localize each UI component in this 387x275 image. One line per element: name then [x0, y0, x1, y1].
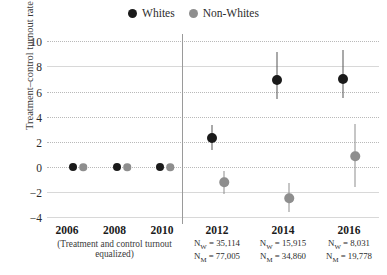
n-w-subscript-2016: W: [334, 243, 340, 250]
data-point-non-whites-2008: [123, 163, 131, 171]
x-group-2012: 2012 NW = 35,114 NM = 77,005: [184, 224, 250, 264]
sample-size-whites-2012: NW = 35,114: [184, 239, 250, 250]
data-point-whites-2016: [338, 74, 348, 84]
sample-size-minorities-2016: NM = 19,778: [316, 252, 382, 263]
preperiod-years: 2006 2008 2010: [56, 224, 174, 237]
y-tick-8: 8: [36, 61, 42, 73]
data-point-whites-2006: [69, 163, 77, 171]
n-w-subscript-2012: W: [200, 243, 206, 250]
x-tick-2014: 2014: [250, 224, 316, 237]
chart-figure: Whites Non-Whites Treatment–control turn…: [0, 0, 387, 275]
gridline-0: 0: [47, 167, 379, 168]
n-m-subscript-2014: M: [266, 256, 272, 263]
gridline-6: 6: [47, 92, 379, 93]
n-m-value-2012: = 77,005: [209, 251, 240, 261]
data-point-non-whites-2014: [284, 193, 294, 203]
data-point-non-whites-2016: [350, 151, 360, 161]
n-w-value-2016: = 8,031: [343, 238, 370, 248]
x-tick-2012: 2012: [184, 224, 250, 237]
data-point-whites-2014: [272, 75, 282, 85]
data-point-non-whites-2010: [166, 163, 174, 171]
y-tick-10: 10: [31, 36, 43, 48]
legend-item-non-whites: Non-Whites: [189, 8, 259, 20]
n-w-subscript-2014: W: [266, 243, 272, 250]
gridline-minus2: −2: [47, 192, 379, 193]
legend-swatch-whites: [128, 9, 137, 18]
x-group-preperiod: 2006 2008 2010 (Treatment and control tu…: [47, 224, 182, 260]
x-group-2016: 2016 NW = 8,031 NM = 19,778: [316, 224, 382, 264]
legend-swatch-non-whites: [189, 9, 198, 18]
n-m-subscript-2016: M: [332, 256, 338, 263]
chart-legend: Whites Non-Whites: [0, 8, 387, 20]
data-point-non-whites-2012: [219, 177, 229, 187]
x-tick-2010: 2010: [151, 224, 174, 237]
n-w-value-2014: = 15,915: [275, 238, 306, 248]
sample-size-minorities-2012: NM = 77,005: [184, 252, 250, 263]
gridline-10: 10: [47, 41, 379, 42]
n-m-subscript-2012: M: [200, 256, 206, 263]
x-group-2014: 2014 NW = 15,915 NM = 34,860: [250, 224, 316, 264]
plot-area: 10 8 6 4 2 0 −2 −4: [47, 36, 379, 222]
x-tick-2008: 2008: [103, 224, 126, 237]
n-m-value-2014: = 34,860: [275, 251, 306, 261]
y-tick-minus4: −4: [30, 212, 42, 224]
legend-item-whites: Whites: [128, 8, 175, 20]
preperiod-note: (Treatment and control turnout equalized…: [47, 239, 182, 260]
gridline-4: 4: [47, 117, 379, 118]
gridline-8: 8: [47, 66, 379, 67]
data-point-whites-2008: [113, 163, 121, 171]
legend-label-non-whites: Non-Whites: [203, 8, 259, 20]
n-w-value-2012: = 35,114: [209, 238, 240, 248]
legend-label-whites: Whites: [142, 8, 175, 20]
data-point-whites-2010: [156, 163, 164, 171]
gridline-minus4: −4: [47, 217, 379, 218]
y-tick-6: 6: [36, 87, 42, 99]
sample-size-whites-2016: NW = 8,031: [316, 239, 382, 250]
n-m-value-2016: = 19,778: [341, 251, 372, 261]
x-axis-labels: 2006 2008 2010 (Treatment and control tu…: [47, 224, 379, 274]
y-tick-minus2: −2: [30, 187, 42, 199]
data-point-non-whites-2006: [79, 163, 87, 171]
sample-size-whites-2014: NW = 15,915: [250, 239, 316, 250]
y-tick-4: 4: [36, 112, 42, 124]
y-tick-2: 2: [36, 137, 42, 149]
data-point-whites-2012: [207, 133, 217, 143]
x-tick-2016: 2016: [316, 224, 382, 237]
y-tick-0: 0: [36, 162, 42, 174]
period-divider: [182, 34, 183, 224]
sample-size-minorities-2014: NM = 34,860: [250, 252, 316, 263]
y-axis-label: Treatment–control turnout rate: [24, 0, 35, 151]
x-tick-2006: 2006: [56, 224, 79, 237]
